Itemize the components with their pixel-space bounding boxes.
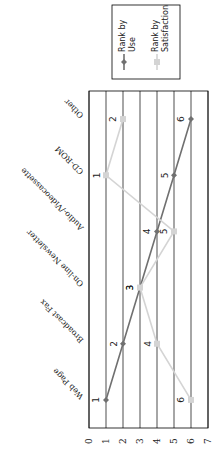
data-label: 4 (143, 341, 153, 347)
value-tick-label: 4 (152, 438, 162, 444)
legend: Rank byUseRank bySatisfaction (112, 5, 180, 79)
data-label: 6 (177, 116, 187, 122)
data-label: 6 (177, 397, 187, 403)
data-point-marker (188, 397, 194, 403)
data-point-marker (103, 172, 109, 178)
data-label: 5 (160, 229, 170, 235)
category-label: Other (62, 97, 85, 120)
rank-line-chart: 01234567Web PageBroadcast FaxOn-line New… (0, 0, 219, 459)
value-tick-label: 1 (101, 438, 111, 444)
category-label: Audio-/Videocassette (19, 166, 86, 233)
legend-label: Rank by (118, 19, 127, 52)
value-tick-label: 6 (186, 438, 196, 444)
data-label: 1 (92, 172, 102, 178)
data-label: 2 (109, 341, 119, 347)
value-tick-label: 3 (135, 438, 145, 444)
legend-label: Rank by (151, 19, 160, 52)
legend-label: Satisfaction (161, 5, 170, 52)
data-point-marker (137, 285, 143, 291)
value-tick-label: 5 (169, 438, 179, 444)
category-label: Web Page (51, 366, 86, 401)
category-label: CD-ROM (53, 144, 85, 176)
data-label: 5 (160, 172, 170, 178)
category-label: On-line Newsletter (25, 228, 86, 289)
data-point-marker (154, 341, 160, 347)
data-point-marker (120, 116, 126, 122)
data-label: 4 (143, 228, 153, 234)
data-label: 2 (109, 116, 119, 122)
data-label: 1 (92, 397, 102, 403)
data-point-marker (171, 228, 177, 234)
category-label: Broadcast Fax (38, 297, 86, 345)
value-tick-label: 2 (118, 438, 128, 444)
data-label: 3 (126, 285, 136, 291)
legend-label: Use (128, 37, 137, 52)
value-tick-label: 7 (203, 438, 213, 444)
value-tick-label: 0 (84, 438, 94, 444)
